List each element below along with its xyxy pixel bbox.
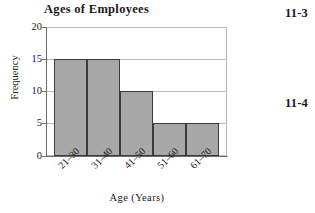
y-tick-mark-0 <box>42 156 46 157</box>
page-marker-11-4: 11-4 <box>285 96 308 111</box>
y-tick-label-20: 20 <box>32 22 43 32</box>
plot-area <box>46 27 227 156</box>
y-tick-mark-15 <box>42 59 46 60</box>
y-tick-mark-10 <box>42 91 46 92</box>
y-tick-label-15: 15 <box>32 54 43 64</box>
y-axis-title: Frequency <box>9 33 20 123</box>
bar-21-30 <box>54 59 87 156</box>
y-tick-label-10: 10 <box>32 86 43 96</box>
bar-series <box>46 27 227 156</box>
page-marker-11-3: 11-3 <box>285 6 308 21</box>
y-tick-mark-5 <box>42 123 46 124</box>
y-axis-spine <box>46 27 47 157</box>
y-tick-mark-20 <box>42 27 46 28</box>
bar-41-50 <box>120 91 153 156</box>
chart-title: Ages of Employees <box>44 2 149 17</box>
bar-31-40 <box>87 59 120 156</box>
x-axis-title: Age (Years) <box>46 192 228 203</box>
histogram-figure: Ages of Employees 20 15 10 5 0 Frequency… <box>0 0 315 213</box>
